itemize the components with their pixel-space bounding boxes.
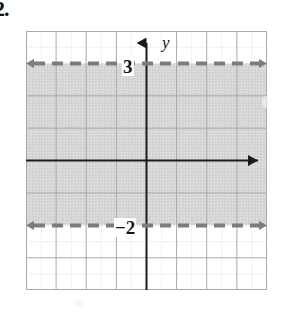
upper-boundary-tick-label: 3 — [122, 57, 134, 76]
scan-artifact — [262, 96, 269, 108]
y-axis-label: y — [162, 33, 170, 53]
graph-svg — [26, 31, 267, 290]
figure-container: 2. — [0, 0, 292, 312]
lower-boundary-tick-label: −2 — [114, 218, 136, 237]
problem-number: 2. — [0, 0, 9, 22]
scan-artifact — [74, 300, 84, 306]
coordinate-plane: y x — [26, 31, 267, 290]
